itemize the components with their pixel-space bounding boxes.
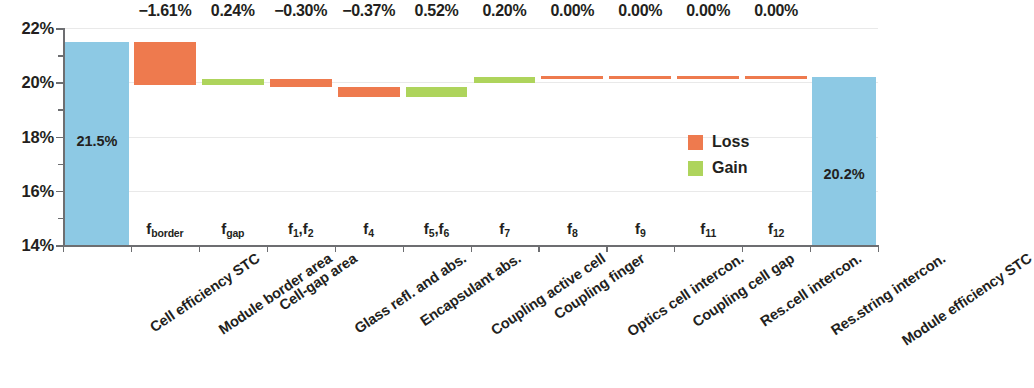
legend-swatch-loss	[688, 135, 703, 150]
symbol-label: f11	[674, 220, 742, 237]
bar-coupling-finger	[474, 77, 536, 82]
symbol-label: f5,f6	[403, 220, 471, 237]
y-axis-tick	[56, 28, 63, 30]
delta-label: 0.00%	[722, 2, 831, 20]
x-axis-tick	[403, 245, 404, 252]
symbol-label: f4	[335, 220, 403, 237]
legend-swatch-gain	[688, 161, 703, 176]
bar-module-efficiency-stc	[812, 77, 876, 245]
x-axis-tick	[674, 245, 675, 252]
x-axis-tick	[538, 245, 539, 252]
y-axis-tick	[56, 82, 63, 84]
bar-cell-gap-area	[202, 79, 264, 86]
symbol-label: fborder	[131, 220, 199, 237]
y-axis-label: 22%	[22, 19, 54, 38]
legend-item-gain: Gain	[688, 157, 749, 179]
x-axis-tick	[131, 245, 132, 252]
legend-label-loss: Loss	[712, 133, 749, 151]
symbol-label: f9	[606, 220, 674, 237]
x-axis-tick	[810, 245, 811, 252]
x-axis-line	[63, 245, 878, 247]
y-axis-tick	[56, 137, 63, 139]
x-axis-tick	[335, 245, 336, 252]
bar-encapsulant-abs	[338, 87, 400, 97]
y-axis-label: 14%	[22, 236, 54, 255]
legend: Loss Gain	[688, 131, 749, 183]
gridline	[63, 137, 878, 138]
bar-coupling-cell-gap	[609, 76, 671, 79]
y-axis-label: 20%	[22, 73, 54, 92]
x-axis-tick	[878, 245, 879, 252]
bar-res-string-intercon	[745, 76, 807, 79]
y-axis-tick	[56, 191, 63, 193]
bar-glass-refl-and-abs	[270, 79, 332, 87]
x-axis-tick	[606, 245, 607, 252]
x-axis-tick	[199, 245, 200, 252]
bar-value-label: 20.2%	[810, 166, 878, 182]
gridline	[63, 28, 878, 29]
symbol-label: fgap	[199, 220, 267, 237]
symbol-label: f1,f2	[267, 220, 335, 237]
x-axis-tick	[742, 245, 743, 252]
bar-res-cell-intercon	[677, 76, 739, 79]
y-axis-label: 18%	[22, 127, 54, 146]
symbol-label: f8	[538, 220, 606, 237]
symbol-label: f12	[742, 220, 810, 237]
y-axis-tick	[56, 245, 63, 247]
legend-label-gain: Gain	[712, 159, 748, 177]
bar-coupling-active-cell	[406, 87, 468, 97]
gridline	[63, 191, 878, 192]
y-axis-label: 16%	[22, 181, 54, 200]
bar-optics-cell-intercon	[541, 76, 603, 79]
legend-item-loss: Loss	[688, 131, 749, 153]
bar-module-border-area	[134, 42, 196, 86]
x-axis-tick	[63, 245, 64, 252]
bar-value-label: 21.5%	[63, 133, 131, 149]
x-axis-tick	[267, 245, 268, 252]
symbol-label: f7	[471, 220, 539, 237]
x-axis-tick	[471, 245, 472, 252]
